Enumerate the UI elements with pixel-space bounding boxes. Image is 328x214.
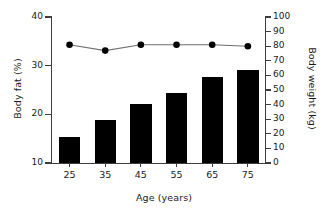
y-axis-right-tick-label: 60 (273, 70, 313, 79)
y-axis-right-tick-label: 90 (273, 27, 313, 36)
y-axis-right-tick (266, 162, 271, 163)
y-axis-right-tick (266, 75, 271, 76)
line-marker: 65: 81 kg (209, 41, 216, 48)
y-axis-left-tick (45, 114, 51, 115)
y-axis-right-tick (266, 16, 271, 17)
y-axis-left-title: Body fat (%) (12, 44, 23, 134)
y-axis-right-tick-label: 80 (273, 41, 313, 50)
line-marker: 35: 77 kg (102, 47, 109, 54)
x-axis-tick-label: 65 (192, 170, 232, 180)
y-axis-right-tick (266, 119, 271, 120)
x-axis-tick-label: 25 (50, 170, 90, 180)
bar (95, 120, 116, 163)
bar (59, 137, 80, 163)
x-axis-tick (212, 163, 213, 167)
y-axis-left-tick (45, 16, 51, 17)
x-axis-tick (247, 163, 248, 167)
bar (237, 70, 258, 163)
y-axis-left-tick-label: 30 (3, 61, 43, 70)
y-axis-right-tick-label: 0 (273, 158, 313, 167)
x-axis-tick-label: 55 (157, 170, 197, 180)
y-axis-right-tick-label: 70 (273, 56, 313, 65)
y-axis-right-tick-label: 50 (273, 85, 313, 94)
y-axis-right-tick-label: 30 (273, 114, 313, 123)
y-axis-right-tick (266, 133, 271, 134)
y-axis-right-tick (266, 89, 271, 90)
x-axis-tick-label: 75 (228, 170, 268, 180)
x-axis-tick (105, 163, 106, 167)
y-axis-right-tick-label: 20 (273, 129, 313, 138)
x-axis-tick-label: 35 (85, 170, 125, 180)
line-marker: 45: 81 kg (138, 41, 145, 48)
x-axis-line (51, 163, 267, 164)
chart-figure: Body fat (%) Body weight (kg) Age (years… (0, 0, 328, 214)
x-axis-tick (69, 163, 70, 167)
y-axis-left-tick (45, 65, 51, 66)
line-marker: 75: 80 kg (245, 43, 252, 50)
y-axis-right-tick (266, 104, 271, 105)
y-axis-left-tick-label: 10 (3, 158, 43, 167)
bar (130, 104, 151, 163)
x-axis-tick (176, 163, 177, 167)
y-axis-right-tick (266, 148, 271, 149)
bar (202, 77, 223, 163)
line-marker: 25: 81 kg (66, 41, 73, 48)
line-path (70, 45, 248, 51)
y-axis-right-tick (266, 46, 271, 47)
x-axis-title: Age (years) (0, 192, 328, 203)
bar (166, 93, 187, 163)
y-axis-left-tick-label: 40 (3, 12, 43, 21)
y-axis-left-line (51, 16, 52, 164)
y-axis-left-tick (45, 162, 51, 163)
y-axis-right-tick (266, 60, 271, 61)
line-marker: 55: 81 kg (173, 41, 180, 48)
y-axis-right-tick-label: 40 (273, 100, 313, 109)
y-axis-right-tick-label: 100 (273, 12, 313, 21)
y-axis-left-tick-label: 20 (3, 109, 43, 118)
x-axis-tick (140, 163, 141, 167)
x-axis-tick-label: 45 (121, 170, 161, 180)
y-axis-right-tick-label: 10 (273, 143, 313, 152)
y-axis-right-tick (266, 31, 271, 32)
